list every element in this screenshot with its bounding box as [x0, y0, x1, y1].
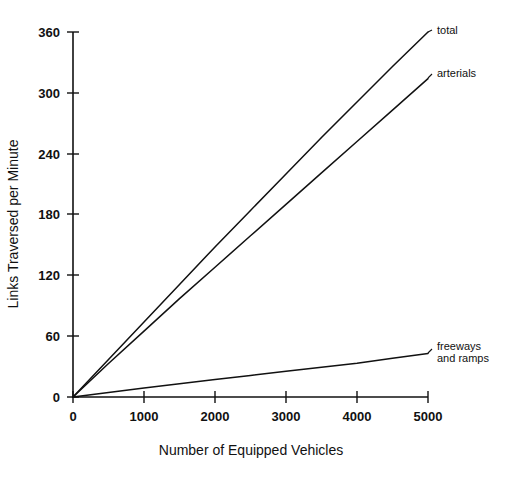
series-label-freeways-line2: and ramps: [437, 352, 489, 364]
x-tick-label-2000: 2000: [201, 409, 230, 424]
y-tick-label-120: 120: [38, 268, 60, 283]
y-tick-label-300: 300: [38, 86, 60, 101]
y-tick-label-180: 180: [38, 207, 60, 222]
chart-container: 360 300 240 180 120 60 0 0 1000 2000 300…: [0, 0, 513, 484]
line-chart: 360 300 240 180 120 60 0 0 1000 2000 300…: [0, 0, 513, 484]
series-line-freeways-and-ramps: [73, 353, 428, 397]
leader-line-freeways: [428, 349, 432, 353]
series-line-arterials: [73, 79, 428, 397]
x-tick-label-5000: 5000: [414, 409, 443, 424]
series-label-total: total: [437, 24, 458, 36]
leader-line-arterials: [428, 74, 432, 78]
series-line-total: [73, 32, 428, 397]
y-tick-label-240: 240: [38, 147, 60, 162]
x-axis-title: Number of Equipped Vehicles: [159, 442, 343, 458]
series-label-freeways-line1: freeways: [437, 340, 482, 352]
y-tick-label-360: 360: [38, 25, 60, 40]
y-axis-title: Links Traversed per Minute: [5, 139, 21, 308]
x-tick-label-3000: 3000: [272, 409, 301, 424]
x-tick-label-1000: 1000: [130, 409, 159, 424]
x-tick-label-4000: 4000: [343, 409, 372, 424]
y-tick-label-60: 60: [46, 329, 60, 344]
y-tick-label-0: 0: [53, 390, 60, 405]
series-label-arterials: arterials: [437, 67, 477, 79]
x-tick-label-0: 0: [69, 409, 76, 424]
leader-line-total: [428, 30, 432, 32]
